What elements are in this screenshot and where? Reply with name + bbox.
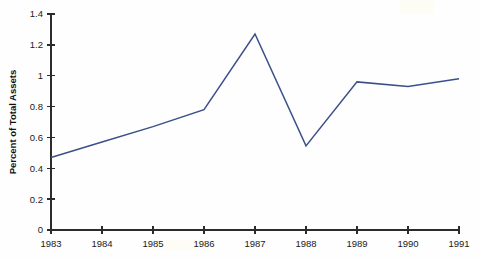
x-axis: 198319841985198619871988198919901991: [40, 226, 469, 249]
line-chart: 00.20.40.60.811.21.4 1983198419851986198…: [0, 0, 479, 261]
chart-canvas: 00.20.40.60.811.21.4 1983198419851986198…: [0, 0, 479, 261]
y-tick-label: 1.2: [30, 39, 43, 50]
x-tick-label: 1988: [295, 238, 316, 249]
y-tick-label: 0.8: [30, 101, 43, 112]
x-tick-label: 1986: [193, 238, 214, 249]
y-tick-label: 0.6: [30, 132, 43, 143]
y-tick-label: 0: [38, 224, 43, 235]
x-tick-label: 1987: [244, 238, 265, 249]
y-axis: 00.20.40.60.811.21.4: [30, 8, 55, 235]
x-tick-label: 1984: [91, 238, 112, 249]
x-tick-label: 1985: [142, 238, 163, 249]
y-tick-label: 1.4: [30, 8, 43, 19]
x-tick-label: 1991: [448, 238, 469, 249]
y-tick-label: 0.4: [30, 163, 43, 174]
y-tick-label-group: 00.20.40.60.811.21.4: [30, 8, 43, 235]
data-line-percent-of-total-assets: [51, 34, 459, 157]
x-tick-label: 1990: [397, 238, 418, 249]
x-tick-label: 1989: [346, 238, 367, 249]
x-tick-label-group: 198319841985198619871988198919901991: [40, 238, 469, 249]
y-axis-title: Percent of Total Assets: [7, 70, 18, 175]
y-tick-label: 0.2: [30, 194, 43, 205]
x-tick-label: 1983: [40, 238, 61, 249]
series-group: [51, 34, 459, 157]
y-tick-label: 1: [38, 70, 43, 81]
